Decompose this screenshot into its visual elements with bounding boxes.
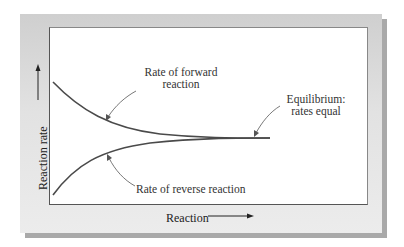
- equilibrium-label-line2: rates equal: [280, 105, 352, 117]
- reverse-leader-line: [109, 158, 135, 186]
- reverse-rate-label: Rate of reverse reaction: [136, 183, 246, 195]
- x-axis-label: Reaction: [166, 211, 209, 226]
- forward-rate-curve: [53, 82, 270, 138]
- reverse-leader-arrowhead: [107, 154, 112, 161]
- y-axis-label: Reaction rate: [36, 126, 51, 190]
- x-axis-arrowhead: [247, 214, 254, 219]
- forward-rate-label-line2: reaction: [136, 78, 226, 90]
- equilibrium-label-line1: Equilibrium:: [280, 93, 352, 105]
- equilibrium-leader-arrowhead: [254, 130, 259, 137]
- equilibrium-leader-line: [256, 106, 280, 133]
- y-axis-arrowhead: [36, 64, 41, 71]
- equilibrium-label: Equilibrium: rates equal: [280, 93, 352, 117]
- forward-leader-arrowhead: [106, 114, 111, 121]
- forward-leader-line: [108, 91, 136, 117]
- forward-rate-label-line1: Rate of forward: [136, 66, 226, 78]
- forward-rate-label: Rate of forward reaction: [136, 66, 226, 90]
- rate-curves: [0, 0, 404, 247]
